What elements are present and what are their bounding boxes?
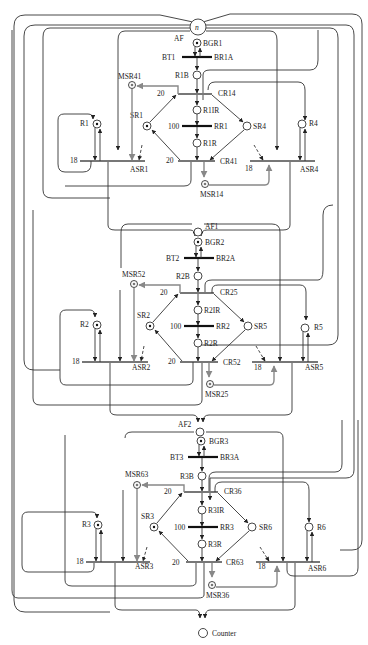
r3-label: R3 xyxy=(82,520,91,529)
petri-net-diagram: n AF BGR1 BT1 BR1A R1B MSR41 20 CR14 R1I… xyxy=(0,0,368,645)
rr3-weight: 100 xyxy=(174,523,186,532)
rr1-weight: 100 xyxy=(168,122,180,131)
r3b-label: R3B xyxy=(180,472,194,481)
r1b-label: R1B xyxy=(175,71,189,80)
r3ir-label: R3IR xyxy=(208,506,224,515)
place-r1ir xyxy=(193,106,201,114)
place-r3r xyxy=(198,540,206,548)
asr5-label: ASR5 xyxy=(305,363,324,372)
r3r-label: R3R xyxy=(208,540,222,549)
r2b-label: R2B xyxy=(176,272,190,281)
rr3-label: RR3 xyxy=(220,523,234,532)
bt2-label: BT2 xyxy=(166,254,180,263)
r1ir-label: R1IR xyxy=(203,106,219,115)
r5-label: R5 xyxy=(314,323,323,332)
place-counter xyxy=(199,629,208,638)
cr25-weight: 20 xyxy=(160,288,168,297)
br2a-label: BR2A xyxy=(216,254,236,263)
counter-group: Counter xyxy=(199,629,237,639)
asr4-label: ASR4 xyxy=(300,165,319,174)
msr25-label: MSR25 xyxy=(205,390,229,399)
place-sr6 xyxy=(248,523,256,531)
rr1-label: RR1 xyxy=(214,122,228,131)
place-af2 xyxy=(196,428,204,436)
cr41-label: CR41 xyxy=(220,157,238,166)
cr52-weight: 20 xyxy=(168,357,176,366)
msr14-label: MSR14 xyxy=(200,190,224,199)
af2-label: AF2 xyxy=(178,420,192,429)
cr63-label: CR63 xyxy=(226,558,244,567)
r2r-label: R2R xyxy=(204,339,218,348)
feedback-loops xyxy=(14,14,362,612)
sr6-label: SR6 xyxy=(259,523,272,532)
sr4-label: SR4 xyxy=(253,122,266,131)
bt1-label: BT1 xyxy=(162,53,176,62)
r1r-label: R1R xyxy=(203,139,217,148)
asr5-weight: 18 xyxy=(254,363,262,372)
place-r3b xyxy=(198,472,206,480)
bgr2-label: BGR2 xyxy=(205,238,224,247)
place-r5 xyxy=(301,324,309,332)
bgr3-label: BGR3 xyxy=(209,437,228,446)
counter-label: Counter xyxy=(212,629,237,638)
place-r2b xyxy=(194,272,202,280)
msr41-label: MSR41 xyxy=(118,72,142,81)
cr14-weight: 20 xyxy=(157,89,165,98)
place-r2r xyxy=(194,339,202,347)
cr14-label: CR14 xyxy=(218,89,236,98)
cr25-label: CR25 xyxy=(220,288,238,297)
asr4-weight: 18 xyxy=(245,164,253,173)
cr63-weight: 20 xyxy=(172,558,180,567)
asr6-label: ASR6 xyxy=(308,564,327,573)
asr1-label: ASR1 xyxy=(130,165,149,174)
msr63-label: MSR63 xyxy=(125,470,149,479)
af1-label: AF1 xyxy=(205,222,219,231)
msr52-label: MSR52 xyxy=(122,270,146,279)
place-sr4 xyxy=(243,122,251,130)
cr36-label: CR36 xyxy=(224,487,242,496)
bgr1-label: BGR1 xyxy=(203,39,222,48)
asr6-weight: 18 xyxy=(258,562,266,571)
r1-label: R1 xyxy=(80,119,89,128)
place-r6 xyxy=(305,523,313,531)
cr41-weight: 20 xyxy=(166,156,174,165)
rr2-weight: 100 xyxy=(170,322,182,331)
r2ir-label: R2IR xyxy=(204,306,220,315)
asr3-label: ASR3 xyxy=(135,562,154,571)
section-2: AF1 BGR2 BT2 BR2A R2B MSR52 20 CR25 R2IR… xyxy=(33,205,333,422)
asr2-label: ASR2 xyxy=(132,363,151,372)
br3a-label: BR3A xyxy=(220,453,240,462)
sr5-label: SR5 xyxy=(254,322,267,331)
r4-label: R4 xyxy=(309,119,318,128)
msr36-label: MSR36 xyxy=(206,591,230,600)
bt3-label: BT3 xyxy=(170,453,184,462)
br1a-label: BR1A xyxy=(214,53,234,62)
sr3-label: SR3 xyxy=(141,512,154,521)
af-label: AF xyxy=(174,34,184,43)
asr1-weight: 18 xyxy=(70,156,78,165)
place-r2ir xyxy=(194,306,202,314)
place-r1b xyxy=(193,71,201,79)
place-af1 xyxy=(194,228,202,236)
sr2-label: SR2 xyxy=(137,311,150,320)
place-sr5 xyxy=(244,322,252,330)
cr36-weight: 20 xyxy=(164,487,172,496)
af-token-label: n xyxy=(195,23,199,32)
r2-label: R2 xyxy=(80,320,89,329)
cr52-label: CR52 xyxy=(223,358,241,367)
r6-label: R6 xyxy=(317,523,326,532)
asr3-weight: 18 xyxy=(76,557,84,566)
place-r3ir xyxy=(198,506,206,514)
place-r1r xyxy=(193,139,201,147)
place-r4 xyxy=(298,120,306,128)
section-1: n AF BGR1 BT1 BR1A R1B MSR41 20 CR14 R1I… xyxy=(58,19,319,236)
asr2-weight: 18 xyxy=(72,357,80,366)
rr2-label: RR2 xyxy=(216,322,230,331)
